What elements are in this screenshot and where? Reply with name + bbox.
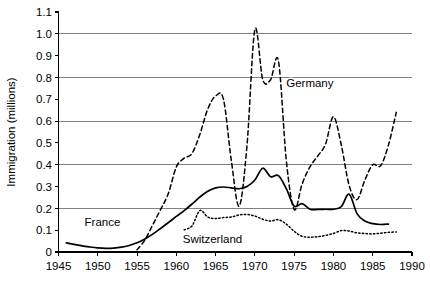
annotation-label-germany: Germany <box>286 77 334 89</box>
y-axis-title-text: Immigration (millions) <box>5 77 17 186</box>
y-tick-label: 0 <box>46 246 52 258</box>
x-axis-tick-labels: 1945195019551960196519701975198019851990 <box>46 260 425 272</box>
x-tick-label: 1945 <box>46 260 72 272</box>
gridlines <box>59 34 413 209</box>
annotation-label-france: France <box>85 216 121 228</box>
x-tick-label: 1955 <box>124 260 150 272</box>
y-axis-tick-labels: 00.10.20.30.40.50.60.70.80.91.01.1 <box>36 6 53 258</box>
x-tick-label: 1975 <box>281 260 307 272</box>
x-tick-label: 1980 <box>321 260 347 272</box>
x-tick-label: 1950 <box>85 260 111 272</box>
y-axis-title: Immigration (millions) <box>5 77 17 186</box>
x-tick-label: 1970 <box>242 260 268 272</box>
y-tick-label: 1.1 <box>36 6 52 18</box>
y-tick-label: 0.5 <box>36 137 52 149</box>
x-tick-label: 1960 <box>164 260 190 272</box>
x-tick-label: 1990 <box>399 260 425 272</box>
y-tick-label: 0.1 <box>36 224 52 236</box>
y-tick-label: 0.6 <box>36 115 52 127</box>
y-tick-label: 0.9 <box>36 50 52 62</box>
y-tick-label: 0.7 <box>36 93 52 105</box>
y-tick-label: 0.2 <box>36 203 52 215</box>
annotation-label-switzerland: Switzerland <box>183 233 242 245</box>
y-tick-label: 0.8 <box>36 72 52 84</box>
x-tick-label: 1985 <box>360 260 386 272</box>
immigration-line-chart: 00.10.20.30.40.50.60.70.80.91.01.1 19451… <box>0 0 430 289</box>
y-tick-label: 0.3 <box>36 181 52 193</box>
x-tick-label: 1965 <box>203 260 229 272</box>
y-tick-label: 0.4 <box>36 159 53 171</box>
y-tick-label: 1.0 <box>36 28 52 40</box>
series-annotations: FranceFranceSwitzerlandSwitzerlandGerman… <box>85 77 334 245</box>
chart-canvas: 00.10.20.30.40.50.60.70.80.91.01.1 19451… <box>0 0 430 289</box>
